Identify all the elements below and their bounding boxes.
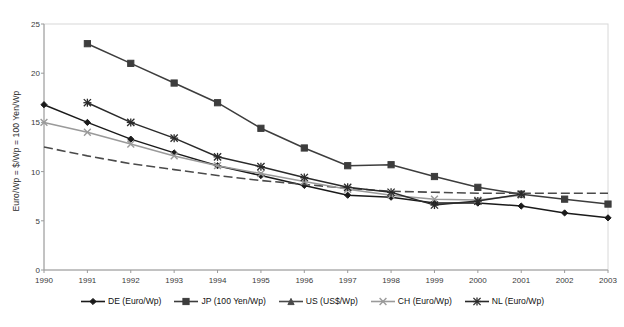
x-tick-label: 1990 <box>35 276 53 285</box>
marker-square <box>214 100 220 106</box>
x-tick-label: 1998 <box>382 276 400 285</box>
x-tick-label: 1991 <box>78 276 96 285</box>
marker-square <box>128 60 134 66</box>
legend-item-us: US (US$/Wp) <box>278 296 358 307</box>
legend-marker-x-icon <box>370 296 396 307</box>
y-tick-label: 5 <box>14 216 40 225</box>
marker-diamond <box>345 192 351 198</box>
marker-diamond <box>90 298 96 304</box>
x-tick-label: 2002 <box>556 276 574 285</box>
marker-square <box>183 298 189 304</box>
marker-square <box>345 163 351 169</box>
x-tick-label: 2000 <box>469 276 487 285</box>
y-tick-label: 0 <box>14 266 40 275</box>
marker-diamond <box>41 102 47 108</box>
legend-label: JP (100 Yen/Wp) <box>201 296 265 307</box>
marker-square <box>475 184 481 190</box>
marker-square <box>258 125 264 131</box>
series-3 <box>44 147 608 193</box>
marker-square <box>431 173 437 179</box>
marker-square <box>301 145 307 151</box>
legend-item-nl: NL (Euro/Wp) <box>464 296 544 307</box>
x-tick-label: 1993 <box>165 276 183 285</box>
legend-label: CH (Euro/Wp) <box>398 296 452 307</box>
x-tick-label: 1994 <box>209 276 227 285</box>
y-tick-label: 25 <box>14 20 40 29</box>
marker-square <box>605 201 611 207</box>
chart-figure: Euro/Wp = $/Wp = 100 Yen/Wp 0510152025 1… <box>0 0 624 327</box>
series-line <box>44 147 608 193</box>
series-1 <box>41 102 611 221</box>
legend-marker-asterisk-icon <box>464 296 490 307</box>
y-tick-label: 15 <box>14 118 40 127</box>
legend-marker-square-icon <box>173 296 199 307</box>
legend-label: US (US$/Wp) <box>306 296 358 307</box>
chart-legend: DE (Euro/Wp)JP (100 Yen/Wp)US (US$/Wp)CH… <box>0 296 624 307</box>
marker-diamond <box>605 215 611 221</box>
x-tick-label: 1992 <box>122 276 140 285</box>
x-tick-label: 2003 <box>599 276 617 285</box>
marker-diamond <box>518 203 524 209</box>
series-line <box>87 103 521 205</box>
x-tick-label: 1999 <box>426 276 444 285</box>
marker-square <box>171 80 177 86</box>
legend-label: DE (Euro/Wp) <box>108 296 161 307</box>
marker-square <box>562 196 568 202</box>
marker-square <box>84 41 90 47</box>
series-2 <box>84 41 611 208</box>
legend-marker-diamond-icon <box>80 296 106 307</box>
y-tick-label: 10 <box>14 167 40 176</box>
series-line <box>87 44 608 204</box>
legend-item-ch: CH (Euro/Wp) <box>370 296 452 307</box>
legend-item-de: DE (Euro/Wp) <box>80 296 161 307</box>
x-tick-label: 1997 <box>339 276 357 285</box>
x-tick-label: 1995 <box>252 276 270 285</box>
marker-diamond <box>562 210 568 216</box>
marker-square <box>388 162 394 168</box>
x-tick-label: 1996 <box>295 276 313 285</box>
y-tick-label: 20 <box>14 69 40 78</box>
legend-marker-triangle-icon <box>278 296 304 307</box>
legend-item-jp: JP (100 Yen/Wp) <box>173 296 265 307</box>
legend-label: NL (Euro/Wp) <box>492 296 544 307</box>
marker-diamond <box>84 119 90 125</box>
x-tick-label: 2001 <box>512 276 530 285</box>
